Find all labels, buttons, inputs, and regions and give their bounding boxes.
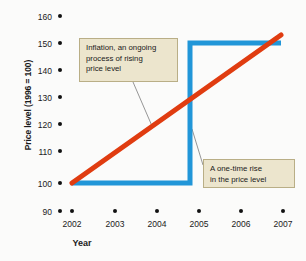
annotation-one-time-rise-line-2: in the price level — [210, 175, 289, 186]
leader-line-inflation — [133, 82, 152, 126]
annotation-inflation-line-2: process of rising — [86, 54, 172, 65]
annotation-one-time-rise: A one-time rise in the price level — [203, 159, 295, 188]
annotation-one-time-rise-line-1: A one-time rise — [210, 164, 289, 175]
annotation-inflation-line-3: price level — [86, 64, 172, 75]
annotation-inflation: Inflation, an ongoing process of rising … — [79, 38, 178, 82]
chart-figure: Price level (1996 = 100) Year 160 150 14… — [0, 0, 306, 261]
annotation-inflation-line-1: Inflation, an ongoing — [86, 43, 172, 54]
leader-line-one-time-rise — [192, 129, 203, 165]
